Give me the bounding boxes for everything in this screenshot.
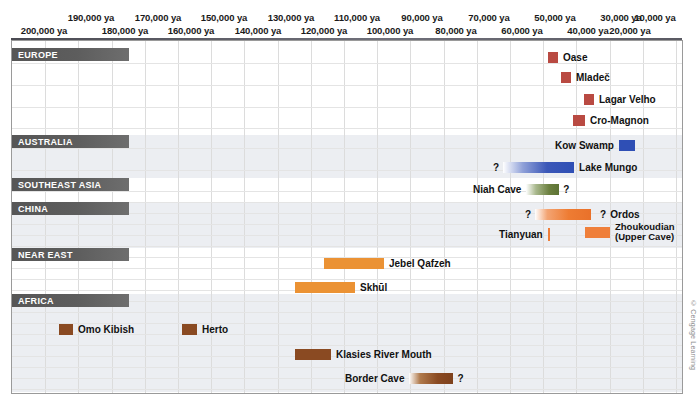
uncertainty-marker: ? — [525, 209, 531, 220]
gridline-vertical — [410, 41, 411, 393]
region-label-europe: EUROPE — [12, 48, 129, 61]
gridline-horizontal — [12, 235, 682, 236]
uncertainty-marker: ? — [493, 162, 499, 173]
axis-tick-label: 170,000 ya — [135, 12, 182, 23]
gridline-vertical — [510, 41, 511, 393]
site-entry-oase: Oase — [548, 51, 587, 63]
gridline-horizontal — [12, 63, 682, 64]
site-entry-niah-cave: Niah Cave? — [473, 183, 569, 195]
axis-tick-label: 120,000 ya — [301, 25, 348, 36]
gridline-horizontal — [12, 107, 682, 108]
site-label-ordos: Ordos — [610, 209, 639, 220]
axis-tick-label: 10,000 ya — [634, 12, 675, 23]
site-entry-skhul: Skhūl — [295, 281, 387, 293]
site-entry-omo-kibish: Omo Kibish — [59, 323, 134, 335]
region-label-southeast-asia: SOUTHEAST ASIA — [12, 178, 129, 191]
site-entry-jebel-qafzeh: Jebel Qafzeh — [324, 257, 451, 269]
axis-tick-label: 110,000 ya — [334, 12, 380, 23]
gridline-vertical — [311, 41, 312, 393]
axis-tick-label: 140,000 ya — [235, 25, 282, 36]
axis-tick-label: 50,000 ya — [534, 12, 575, 23]
region-label-africa: AFRICA — [12, 294, 129, 307]
site-bar-kow-swamp — [619, 140, 635, 151]
axis-tick-label: 20,000 ya — [609, 25, 650, 36]
site-label-klasies: Klasies River Mouth — [336, 349, 432, 360]
gridline-vertical — [78, 41, 79, 393]
gridline-horizontal — [12, 246, 682, 247]
chart-plot-area: EUROPEAUSTRALIASOUTHEAST ASIACHINANEAR E… — [11, 40, 683, 394]
site-label-tianyuan: Tianyuan — [499, 229, 543, 240]
axis-tick-label: 180,000 ya — [102, 25, 149, 36]
axis-tick-label: 190,000 ya — [68, 12, 115, 23]
axis-tick-label: 130,000 ya — [268, 12, 315, 23]
region-label-china: CHINA — [12, 202, 129, 215]
gridline-vertical — [377, 41, 378, 393]
gridline-vertical — [444, 41, 445, 393]
site-entry-mladec: Mladeč — [561, 71, 610, 83]
site-entry-tianyuan: Tianyuan — [499, 228, 550, 240]
site-entry-lagar-velho: Lagar Velho — [584, 93, 656, 105]
gridline-vertical — [211, 41, 212, 393]
gridline-horizontal — [12, 191, 682, 192]
site-label-niah-cave: Niah Cave — [473, 184, 521, 195]
site-entry-lake-mungo: ?Lake Mungo — [493, 161, 637, 173]
axis-tick-label: 60,000 ya — [501, 25, 542, 36]
site-bar-skhul — [295, 282, 355, 293]
site-bar-niah-cave — [526, 184, 559, 195]
site-entry-klasies: Klasies River Mouth — [295, 348, 432, 360]
region-label-near-east: NEAR EAST — [12, 248, 129, 261]
gridline-vertical — [45, 41, 46, 393]
site-label-jebel-qafzeh: Jebel Qafzeh — [389, 258, 451, 269]
gridline-horizontal — [12, 85, 682, 86]
gridline-vertical — [244, 41, 245, 393]
axis-tick-label: 80,000 ya — [435, 25, 476, 36]
gridline-vertical — [344, 41, 345, 393]
site-label-cro-magnon: Cro-Magnon — [590, 115, 649, 126]
gridline-vertical — [178, 41, 179, 393]
site-bar-jebel-qafzeh — [324, 258, 384, 269]
site-bar-herto — [182, 324, 197, 335]
gridline-vertical — [477, 41, 478, 393]
gridline-vertical — [676, 41, 677, 393]
axis-tick-label: 100,000 ya — [367, 25, 414, 36]
site-label-skhul: Skhūl — [360, 282, 387, 293]
site-bar-omo-kibish — [59, 324, 73, 335]
site-label-border-cave: Border Cave — [345, 373, 404, 384]
site-label-lagar-velho: Lagar Velho — [599, 94, 656, 105]
site-label-zhoukoudian: Zhoukoudian(Upper Cave) — [615, 222, 675, 242]
site-bar-border-cave — [409, 373, 453, 384]
gridline-horizontal — [12, 367, 682, 368]
axis-tick-label: 90,000 ya — [401, 12, 442, 23]
gridline-horizontal — [12, 312, 682, 313]
site-label-mladec: Mladeč — [576, 72, 610, 83]
region-label-australia: AUSTRALIA — [12, 135, 129, 148]
site-bar-lake-mungo — [503, 162, 574, 173]
site-label-herto: Herto — [202, 324, 228, 335]
gridline-horizontal — [12, 279, 682, 280]
gridline-horizontal — [12, 224, 682, 225]
site-entry-border-cave: Border Cave? — [345, 372, 464, 384]
axis-tick-label: 160,000 ya — [168, 25, 215, 36]
site-bar-cro-magnon — [573, 115, 585, 126]
gridline-vertical — [112, 41, 113, 393]
x-axis: 190,000 ya170,000 ya150,000 ya130,000 ya… — [0, 0, 699, 40]
site-bar-oase — [548, 52, 558, 63]
uncertainty-marker: ? — [457, 373, 463, 384]
site-bar-tianyuan — [548, 228, 550, 241]
gridline-horizontal — [12, 128, 682, 129]
site-entry-ordos: ??Ordos — [525, 208, 640, 220]
axis-tick-label: 40,000 ya — [567, 25, 608, 36]
copyright-notice: © Cengage Learning — [690, 300, 697, 370]
site-label-lake-mungo: Lake Mungo — [579, 162, 637, 173]
site-entry-zhoukoudian: Zhoukoudian(Upper Cave) — [585, 226, 675, 238]
gridline-horizontal — [12, 345, 682, 346]
gridline-horizontal — [12, 389, 682, 390]
axis-tick-label: 70,000 ya — [468, 12, 509, 23]
site-label-omo-kibish: Omo Kibish — [78, 324, 134, 335]
uncertainty-marker: ? — [600, 209, 606, 220]
site-bar-klasies — [295, 349, 331, 360]
axis-tick-label: 200,000 ya — [21, 25, 68, 36]
site-entry-kow-swamp: Kow Swamp — [555, 139, 635, 151]
site-entry-cro-magnon: Cro-Magnon — [573, 114, 649, 126]
site-bar-ordos — [535, 209, 591, 220]
